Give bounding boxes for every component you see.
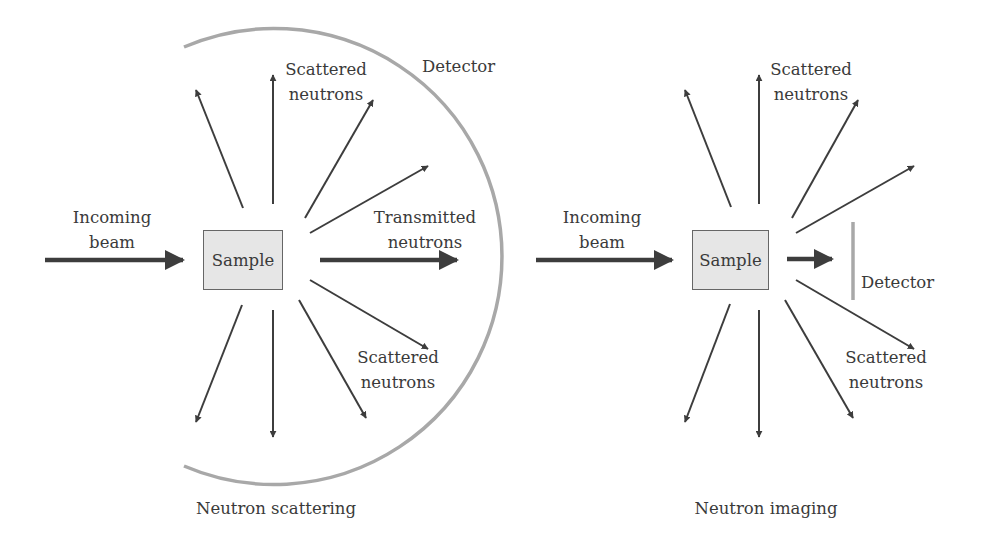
scattered-arrow-icon [196, 305, 242, 422]
scattering-caption: Neutron scattering [196, 496, 356, 521]
scattered-arrow-icon [796, 166, 914, 233]
incoming-beam-label-line2: beam [73, 230, 151, 255]
scattered-neutrons-top-label: Scattered neutrons [285, 57, 367, 107]
sample-box: Sample [692, 230, 769, 290]
scattered-arrow-icon [685, 90, 731, 207]
sample-label: Sample [699, 251, 761, 270]
transmitted-label-line1: Transmitted [374, 205, 476, 230]
scattered-label-line2: neutrons [770, 82, 852, 107]
scattered-neutrons-bottom-label: Scattered neutrons [845, 345, 927, 395]
incoming-beam-label-line1: Incoming [73, 205, 151, 230]
scattered-label-line1: Scattered [285, 57, 367, 82]
transmitted-label-line2: neutrons [374, 230, 476, 255]
incoming-beam-label-line1: Incoming [563, 205, 641, 230]
scattered-arrow-icon [299, 300, 366, 418]
scattered-label-line2: neutrons [357, 370, 439, 395]
imaging-caption: Neutron imaging [695, 496, 838, 521]
sample-box: Sample [203, 230, 283, 290]
scattered-neutrons-bottom-label: Scattered neutrons [357, 345, 439, 395]
scattered-label-line2: neutrons [845, 370, 927, 395]
scattered-arrow-icon [196, 90, 243, 208]
scattered-label-line2: neutrons [285, 82, 367, 107]
scattered-label-line1: Scattered [357, 345, 439, 370]
detector-label: Detector [861, 270, 934, 295]
scattered-label-line1: Scattered [770, 57, 852, 82]
scattered-label-line1: Scattered [845, 345, 927, 370]
incoming-beam-label: Incoming beam [73, 205, 151, 255]
transmitted-neutrons-label: Transmitted neutrons [374, 205, 476, 255]
scattered-arrow-icon [310, 280, 428, 349]
sample-label: Sample [212, 251, 274, 270]
scattered-arrow-icon [685, 304, 730, 422]
incoming-beam-label: Incoming beam [563, 205, 641, 255]
neutron-diagram: Sample Incoming beam Scattered neutrons … [0, 0, 981, 539]
detector-label: Detector [422, 54, 495, 79]
scattered-neutrons-top-label: Scattered neutrons [770, 57, 852, 107]
scattered-arrow-icon [785, 300, 853, 418]
incoming-beam-label-line2: beam [563, 230, 641, 255]
scattered-arrow-icon [305, 100, 373, 218]
scattered-arrow-icon [792, 100, 858, 218]
